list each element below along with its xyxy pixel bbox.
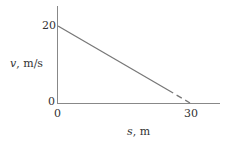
- x-tick-30: 30: [184, 108, 198, 119]
- plot-area: [0, 0, 230, 142]
- data-line-solid: [58, 26, 168, 90]
- y-axis-label: v, m/s: [10, 58, 43, 69]
- y-tick-0: 0: [48, 96, 55, 107]
- data-line-dashed: [168, 90, 190, 103]
- x-tick-0: 0: [54, 108, 61, 119]
- x-axis-label: s, m: [127, 126, 150, 137]
- y-tick-20: 20: [42, 20, 56, 31]
